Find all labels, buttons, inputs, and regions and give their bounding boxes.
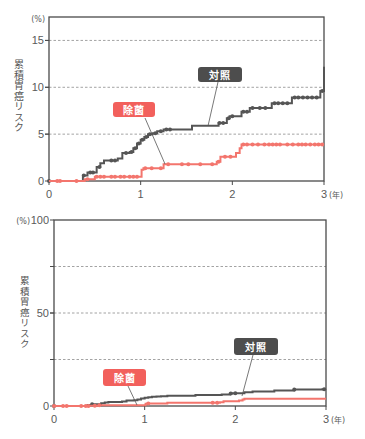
- censor-mark-eradication: [291, 142, 295, 146]
- censor-mark-eradication: [296, 142, 300, 146]
- censor-mark-eradication: [122, 175, 126, 179]
- censor-mark-eradication: [75, 179, 79, 183]
- x-tick-label: 1: [142, 413, 148, 425]
- censor-mark-eradication: [113, 175, 117, 179]
- y-tick-label: 0: [38, 175, 44, 187]
- censor-mark-eradication: [274, 142, 278, 146]
- censor-mark-control: [113, 158, 117, 162]
- censor-mark-control: [273, 101, 277, 105]
- censor-mark-eradication: [300, 142, 304, 146]
- censor-mark-eradication: [186, 162, 190, 166]
- chart-2: 050100(%)0123(年): [16, 214, 345, 425]
- censor-mark-control: [91, 171, 95, 175]
- censor-mark-control: [230, 114, 234, 118]
- plot-frame: [49, 17, 324, 181]
- censor-mark-eradication: [150, 166, 154, 170]
- censor-mark-eradication: [146, 401, 150, 405]
- censor-mark-eradication: [97, 403, 101, 407]
- censor-mark-eradication: [271, 142, 275, 146]
- censor-mark-control: [229, 392, 233, 396]
- censor-mark-control: [233, 391, 237, 395]
- censor-mark-control: [159, 129, 163, 133]
- censor-mark-control: [241, 110, 245, 114]
- censor-mark-eradication: [61, 404, 65, 408]
- y-tick-label: 15: [32, 34, 44, 46]
- censor-mark-control: [82, 173, 86, 177]
- censor-mark-eradication: [215, 401, 219, 405]
- censor-mark-eradication: [313, 142, 317, 146]
- censor-mark-eradication: [166, 162, 170, 166]
- censor-mark-control: [285, 101, 289, 105]
- censor-mark-eradication: [256, 142, 260, 146]
- censor-mark-control: [137, 142, 141, 146]
- censor-mark-control: [281, 101, 285, 105]
- censor-mark-eradication: [251, 142, 255, 146]
- censor-mark-eradication: [128, 175, 132, 179]
- charts-canvas: 051015(%)0123(年)050100(%)0123(年): [0, 0, 365, 439]
- censor-mark-control: [168, 127, 172, 131]
- censor-mark-eradication: [317, 142, 321, 146]
- y-axis-title: 累積胃癌リスク: [12, 59, 22, 133]
- x-tick-label: 0: [51, 413, 57, 425]
- censor-mark-eradication: [93, 404, 97, 408]
- censor-mark-control: [292, 387, 296, 391]
- censor-mark-eradication: [198, 162, 202, 166]
- censor-mark-eradication: [79, 404, 83, 408]
- x-tick-label: 3: [323, 413, 329, 425]
- censor-mark-control: [258, 106, 262, 110]
- censor-mark-eradication: [229, 155, 233, 159]
- censor-mark-control: [221, 121, 225, 125]
- series-label-control: 対照: [234, 338, 278, 355]
- censor-mark-eradication: [143, 166, 147, 170]
- y-tick-label: 100: [31, 214, 49, 226]
- censor-mark-eradication: [217, 160, 221, 164]
- censor-mark-control: [320, 89, 324, 93]
- censor-mark-control: [153, 131, 157, 135]
- censor-mark-control: [109, 158, 113, 162]
- censor-mark-eradication: [211, 401, 215, 405]
- censor-mark-eradication: [262, 142, 266, 146]
- censor-mark-eradication: [52, 404, 56, 408]
- censor-mark-eradication: [98, 175, 102, 179]
- censor-mark-control: [133, 146, 137, 150]
- censor-mark-eradication: [320, 142, 324, 146]
- censor-mark-eradication: [109, 175, 113, 179]
- y-unit-label: (%): [16, 217, 30, 226]
- censor-mark-eradication: [131, 175, 135, 179]
- censor-mark-eradication: [102, 175, 106, 179]
- censor-mark-eradication: [86, 177, 90, 181]
- censor-mark-control: [276, 101, 280, 105]
- censor-mark-eradication: [223, 155, 227, 159]
- censor-mark-eradication: [308, 142, 312, 146]
- y-tick-label: 10: [32, 81, 44, 93]
- callout-leader-control: [208, 82, 218, 126]
- x-tick-label: 2: [232, 413, 238, 425]
- censor-mark-control: [97, 165, 101, 169]
- censor-mark-eradication: [245, 142, 249, 146]
- series-label-eradication: 除菌: [103, 369, 146, 386]
- x-tick-label: 2: [229, 188, 235, 200]
- x-tick-label: 3: [321, 188, 327, 200]
- censor-mark-eradication: [210, 162, 214, 166]
- y-tick-label: 5: [38, 128, 44, 140]
- censor-mark-eradication: [65, 404, 69, 408]
- x-unit-label: (年): [329, 190, 343, 200]
- series-label-eradication: 除菌: [113, 102, 155, 117]
- x-tick-label: 0: [46, 188, 52, 200]
- censor-mark-control: [322, 387, 326, 391]
- censor-mark-control: [251, 106, 255, 110]
- censor-mark-eradication: [135, 175, 139, 179]
- censor-mark-eradication: [159, 166, 163, 170]
- censor-mark-control: [227, 116, 231, 120]
- censor-mark-control: [218, 121, 222, 125]
- censor-mark-control: [310, 96, 314, 100]
- censor-mark-control: [245, 110, 249, 114]
- censor-mark-control: [141, 138, 145, 142]
- censor-mark-control: [144, 135, 148, 139]
- censor-mark-eradication: [86, 404, 90, 408]
- x-unit-label: (年): [331, 415, 345, 425]
- y-axis-title: 累積胃癌リスク: [19, 276, 29, 350]
- figure: 051015(%)0123(年)050100(%)0123(年) 累積胃癌リスク…: [0, 0, 365, 439]
- y-tick-label: 0: [43, 400, 49, 412]
- series-label-control: 対照: [198, 67, 242, 82]
